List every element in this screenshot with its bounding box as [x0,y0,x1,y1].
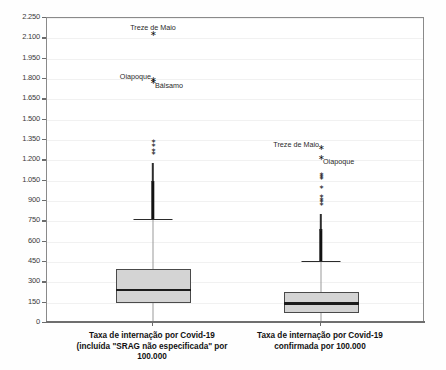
outlier-point: ∗ [319,176,324,180]
y-tick-label: 1.650 [22,93,40,102]
y-tick-label: 2.100 [22,32,40,41]
x-axis-label-1: Taxa de internação por Covid-19(incluída… [57,331,247,363]
lower-whisker-cap [302,322,341,324]
x-tick-mark [152,322,153,326]
gridline [47,59,423,60]
gridline [47,181,423,182]
y-tick-label: 750 [28,215,40,224]
boxplot-2: ∗∗∗∗∗∗∗∗∗Treze de Maio∗Oiapoque [284,18,359,323]
median-line [284,302,359,304]
y-tick-label: 150 [28,297,40,306]
y-tick-label: 300 [28,276,40,285]
y-tick-label: 450 [28,256,40,265]
outlier-annotation: Treze de Maio [130,23,176,32]
gridline [47,282,423,283]
gridline [47,18,423,19]
gridline [47,140,423,141]
lower-whisker [321,313,322,322]
gridline [47,79,423,80]
y-tick-label: 1.050 [22,175,40,184]
y-tick-label: 1.950 [22,53,40,62]
outlier-annotation: Bálsamo [155,81,183,90]
upper-whisker [321,261,322,292]
x-axis-label-line: confirmada por 100.000 [225,342,415,353]
lower-whisker [153,303,154,321]
y-tick-label: 2.250 [22,12,40,21]
gridline [47,120,423,121]
y-tick-label: 0 [36,317,40,326]
outlier-annotation: Oiapoque [323,157,354,166]
lower-whisker-cap [134,321,173,323]
y-tick-label: 1.800 [22,73,40,82]
boxplot-figure: 01503004506007509001.0501.2001.3501.5001… [0,0,446,370]
outlier-point: ∗ [319,202,324,206]
y-tick-label: 1.500 [22,114,40,123]
outlier-point: ∗ [151,151,156,155]
plot-area: ∗∗∗∗∗Treze de Maio∗Oiapoque∗Bálsamo∗∗∗∗∗… [46,17,424,322]
outlier-annotation: Treze de Maio [273,140,319,149]
x-axis-label-line: 100.000 [57,352,247,363]
x-axis-label-line: (incluída "SRAG não especificada" por [57,342,247,353]
y-tick-label: 900 [28,195,40,204]
outlier-cluster-dense [151,181,154,219]
boxplot-1: ∗∗∗∗∗Treze de Maio∗Oiapoque∗Bálsamo [116,18,191,323]
median-line [116,289,191,291]
outlier-annotation: Oiapoque [120,72,151,81]
gridline [47,201,423,202]
gridline [47,303,423,304]
y-tick-label: 1.350 [22,134,40,143]
gridline [47,38,423,39]
outlier-point: ∗ [319,185,324,189]
y-tick-label: 600 [28,236,40,245]
gridline [47,242,423,243]
outlier-point: ∗ [151,143,156,147]
outlier-cluster-taper [152,163,154,183]
gridline [47,221,423,222]
x-tick-mark [320,322,321,326]
x-axis-label-2: Taxa de internação por Covid-19confirmad… [225,331,415,352]
upper-whisker [153,219,154,268]
outlier-cluster-taper [320,214,322,230]
gridline [47,99,423,100]
x-axis-label-line: Taxa de internação por Covid-19 [225,331,415,342]
outlier-cluster-dense [319,229,322,261]
x-axis-label-line: Taxa de internação por Covid-19 [57,331,247,342]
gridline [47,262,423,263]
box-iqr [116,269,191,304]
y-tick-label: 1.200 [22,154,40,163]
gridline [47,160,423,161]
